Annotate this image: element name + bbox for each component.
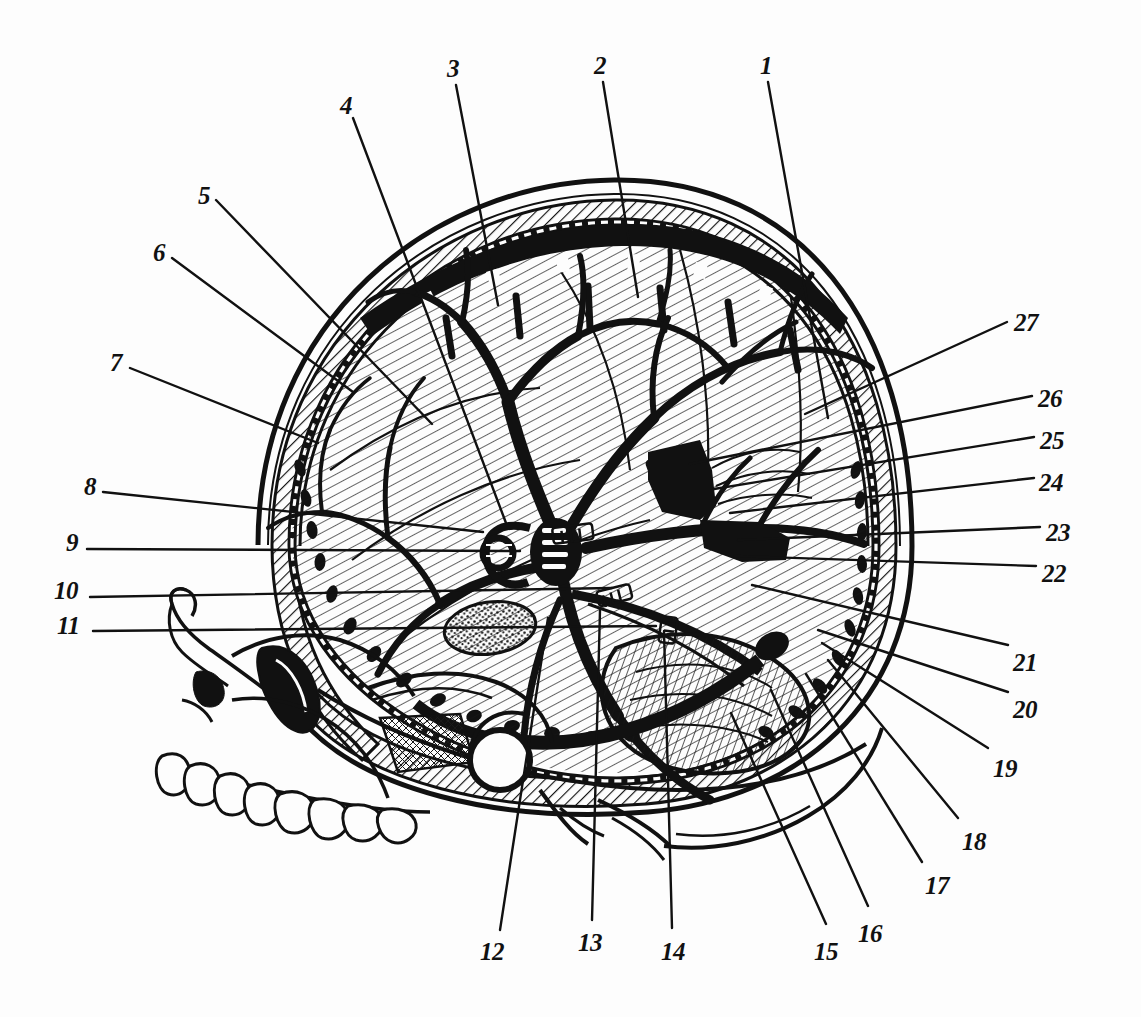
callout-number-2: 2 (594, 53, 606, 78)
leader-line-7 (130, 368, 318, 443)
callout-number-15: 15 (814, 939, 838, 964)
callout-number-19: 19 (993, 756, 1017, 781)
illustration-canvas (0, 0, 1141, 1017)
callout-number-1: 1 (760, 53, 772, 78)
callout-number-26: 26 (1038, 386, 1062, 411)
callout-number-13: 13 (578, 930, 602, 955)
callout-number-7: 7 (110, 350, 122, 375)
callout-number-12: 12 (480, 939, 504, 964)
callout-number-3: 3 (447, 56, 459, 81)
callout-number-24: 24 (1039, 470, 1063, 495)
callout-number-22: 22 (1042, 561, 1066, 586)
callout-number-25: 25 (1040, 428, 1064, 453)
callout-number-8: 8 (84, 474, 96, 499)
callout-number-18: 18 (962, 829, 986, 854)
callout-number-5: 5 (198, 183, 210, 208)
callout-number-6: 6 (153, 240, 165, 265)
callout-number-23: 23 (1046, 520, 1070, 545)
callout-number-11: 11 (57, 613, 80, 638)
callout-number-4: 4 (340, 93, 352, 118)
callout-number-17: 17 (925, 873, 949, 898)
callout-number-9: 9 (66, 530, 78, 555)
callout-number-20: 20 (1013, 697, 1037, 722)
callout-number-14: 14 (661, 939, 685, 964)
anatomical-figure: 1234567891011121314151617181920212223242… (0, 0, 1141, 1017)
callout-number-10: 10 (54, 578, 78, 603)
callout-number-21: 21 (1013, 650, 1037, 675)
callout-number-27: 27 (1014, 310, 1038, 335)
callout-number-16: 16 (858, 921, 882, 946)
